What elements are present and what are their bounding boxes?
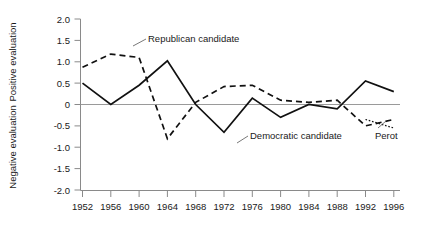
x-tick-label: 1968 xyxy=(185,201,206,212)
y-tick-label: -1.5 xyxy=(54,163,70,174)
x-tick-label: 1996 xyxy=(383,201,404,212)
y-tick-label: 2.0 xyxy=(57,14,70,25)
annotation-perot: Perot xyxy=(375,130,398,141)
leader-line-republican xyxy=(133,39,146,46)
series-line-republican-candidate xyxy=(83,54,394,139)
y-tick-labels: 2.0 1.5 1.0 0.5 0 -0.5 -1.0 -1.5 -2.0 xyxy=(54,14,70,196)
x-tick-label: 1988 xyxy=(327,201,348,212)
series-line-democratic-candidate xyxy=(83,61,394,132)
annotation-republican-candidate: Republican candidate xyxy=(148,33,239,44)
annotation-democratic-candidate: Democratic candidate xyxy=(250,130,342,141)
x-tick-label: 1976 xyxy=(242,201,263,212)
x-tick-label: 1980 xyxy=(270,201,291,212)
y-tick-label: 0.5 xyxy=(57,78,70,89)
y-tick-label: -2.0 xyxy=(54,185,70,196)
x-tick-label: 1952 xyxy=(72,201,93,212)
leader-line-democratic xyxy=(237,136,248,143)
y-tick-label: -1.0 xyxy=(54,142,70,153)
x-tick-labels: 1952 1956 1960 1964 1968 1972 1976 1980 … xyxy=(72,201,404,212)
x-tick-label: 1960 xyxy=(129,201,150,212)
chart-container: Positive evaluation Negative evaluation … xyxy=(0,0,435,229)
y-tick-label: 0 xyxy=(65,99,70,110)
y-axis-title-negative: Negative evaluation xyxy=(7,105,18,188)
y-tick-marks xyxy=(75,19,81,190)
x-tick-label: 1992 xyxy=(355,201,376,212)
x-tick-label: 1984 xyxy=(298,201,319,212)
y-axis-title-positive: Positive evaluation xyxy=(7,22,18,101)
x-tick-label: 1956 xyxy=(100,201,121,212)
x-tick-marks xyxy=(83,191,394,198)
y-tick-label: 1.0 xyxy=(57,56,70,67)
line-chart: Positive evaluation Negative evaluation … xyxy=(0,0,435,229)
y-tick-label: 1.5 xyxy=(57,35,70,46)
y-tick-label: -0.5 xyxy=(54,120,70,131)
x-tick-label: 1964 xyxy=(157,201,178,212)
x-tick-label: 1972 xyxy=(213,201,234,212)
